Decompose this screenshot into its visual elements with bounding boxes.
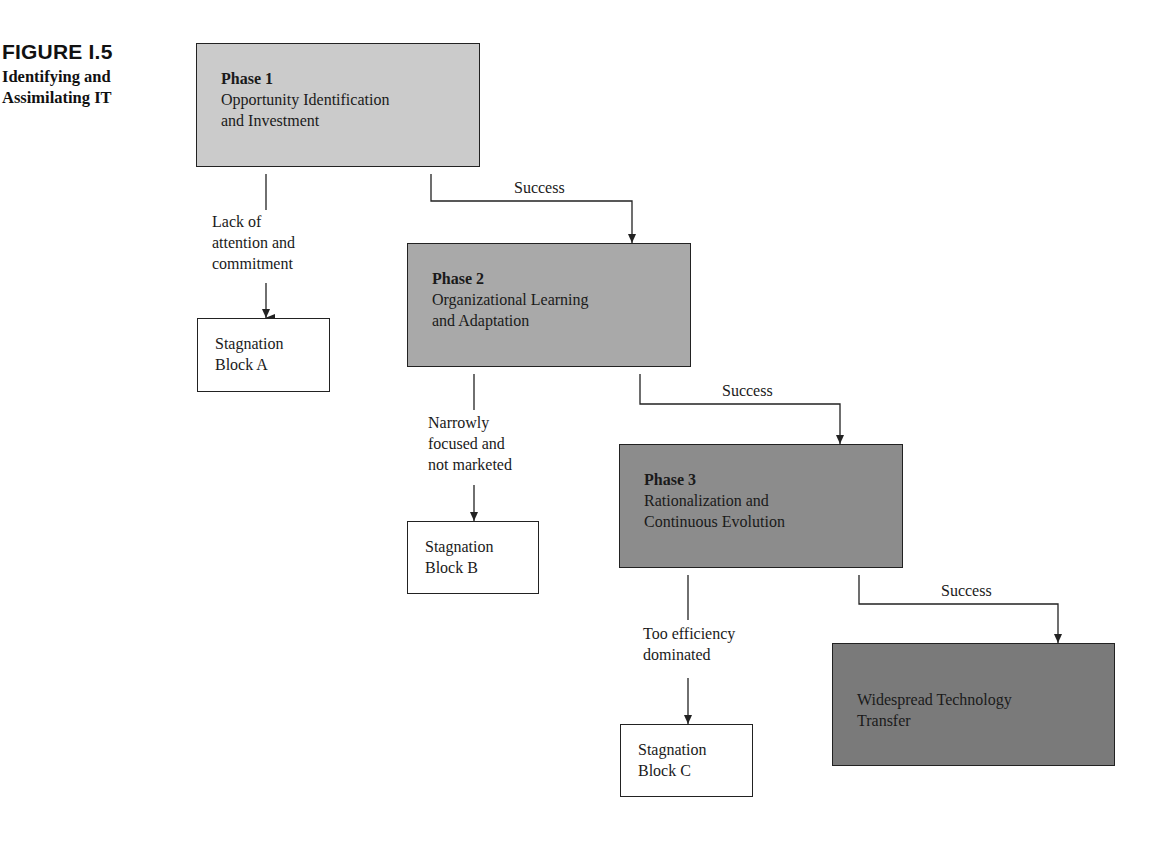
- failure-label-3-line2: dominated: [643, 644, 735, 665]
- success-label-1: Success: [514, 177, 565, 198]
- phase-1-line2: and Investment: [221, 110, 319, 131]
- failure-label-2-line2: focused and: [428, 433, 512, 454]
- stagnation-a-line1: Stagnation: [215, 333, 283, 354]
- phase-3-heading: Phase 3: [644, 469, 696, 490]
- failure-label-1-line1: Lack of: [212, 211, 295, 232]
- phase-2-line1: Organizational Learning: [432, 289, 589, 310]
- stagnation-c-line1: Stagnation: [638, 739, 706, 760]
- success-label-3: Success: [941, 580, 992, 601]
- phase-2-box: Phase 2 Organizational Learning and Adap…: [407, 243, 691, 367]
- failure-label-2: Narrowly focused and not marketed: [428, 412, 512, 475]
- phase-3-line1: Rationalization and: [644, 490, 769, 511]
- failure-label-1: Lack of attention and commitment: [212, 211, 295, 274]
- stagnation-b-line1: Stagnation: [425, 536, 493, 557]
- widespread-technology-transfer-box: Widespread Technology Transfer: [832, 643, 1115, 766]
- phase-3-line2: Continuous Evolution: [644, 511, 785, 532]
- stagnation-b-line2: Block B: [425, 557, 478, 578]
- failure-label-2-line1: Narrowly: [428, 412, 512, 433]
- stagnation-a-line2: Block A: [215, 354, 268, 375]
- stagnation-block-b: Stagnation Block B: [407, 521, 539, 594]
- failure-label-1-line2: attention and: [212, 232, 295, 253]
- phase-1-heading: Phase 1: [221, 68, 273, 89]
- phase-2-line2: and Adaptation: [432, 310, 529, 331]
- failure-label-1-line3: commitment: [212, 253, 295, 274]
- final-line1: Widespread Technology: [857, 689, 1012, 710]
- phase-1-line1: Opportunity Identification: [221, 89, 389, 110]
- failure-label-3-line1: Too efficiency: [643, 623, 735, 644]
- final-line2: Transfer: [857, 710, 911, 731]
- phase-2-heading: Phase 2: [432, 268, 484, 289]
- stagnation-c-line2: Block C: [638, 760, 691, 781]
- failure-label-2-line3: not marketed: [428, 454, 512, 475]
- success-label-2: Success: [722, 380, 773, 401]
- phase-1-box: Phase 1 Opportunity Identification and I…: [196, 43, 480, 167]
- phase-3-box: Phase 3 Rationalization and Continuous E…: [619, 444, 903, 568]
- stagnation-block-a: Stagnation Block A: [197, 318, 330, 392]
- failure-label-3: Too efficiency dominated: [643, 623, 735, 665]
- stagnation-block-c: Stagnation Block C: [620, 724, 753, 797]
